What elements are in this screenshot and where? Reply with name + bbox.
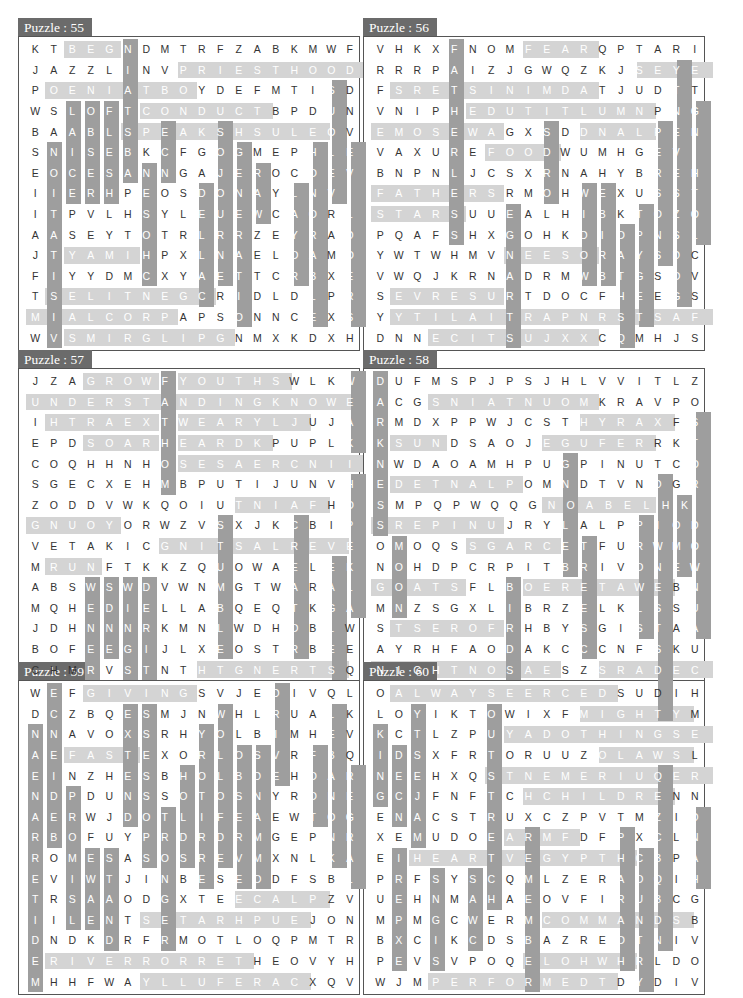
grid-letter: I	[267, 495, 286, 516]
grid-letter: G	[445, 598, 464, 619]
grid-row: NWDAOAMHPUGPINUTCO	[371, 453, 704, 474]
grid-letter: A	[501, 536, 520, 557]
grid-letter: T	[519, 286, 538, 307]
grid-row: SNISEBKCFGOGMEPHLE	[26, 142, 359, 163]
grid-letter: I	[63, 142, 82, 163]
grid-row: RRRPAIZJGWQZKJSEYE	[371, 60, 704, 81]
grid-letter: S	[686, 412, 705, 433]
grid-letter: E	[322, 639, 341, 660]
grid-letter: M	[248, 848, 267, 869]
grid-letter: E	[230, 868, 249, 889]
grid-letter: R	[137, 433, 156, 454]
grid-letter: I	[193, 807, 212, 828]
grid-letter: E	[26, 433, 45, 454]
letter-grid: OALWAYSEERCEDSUDIHLOYIKTOWIXFMIGHTYMKCTL…	[364, 681, 704, 994]
grid-letter: A	[322, 224, 341, 245]
grid-letter: U	[686, 639, 705, 660]
grid-letter: E	[649, 60, 668, 81]
grid-letter: O	[285, 951, 304, 972]
grid-row: JDHNNNRKMNLWDHOBLW	[26, 618, 359, 639]
grid-letter: N	[519, 392, 538, 413]
grid-letter: Y	[63, 245, 82, 266]
grid-letter: P	[174, 60, 193, 81]
grid-letter: S	[63, 577, 82, 598]
grid-letter: I	[593, 453, 612, 474]
grid-letter: A	[501, 889, 520, 910]
grid-letter: B	[538, 618, 557, 639]
grid-letter: A	[371, 392, 390, 413]
grid-letter: A	[612, 245, 631, 266]
grid-letter: R	[445, 618, 464, 639]
grid-letter: O	[612, 224, 631, 245]
grid-letter: G	[26, 515, 45, 536]
grid-letter: E	[371, 807, 390, 828]
grid-letter: P	[267, 433, 286, 454]
grid-letter: U	[63, 515, 82, 536]
grid-letter: B	[556, 556, 575, 577]
grid-letter: D	[267, 683, 286, 704]
grid-letter: D	[285, 286, 304, 307]
grid-letter: A	[482, 433, 501, 454]
grid-letter: E	[427, 618, 446, 639]
grid-letter: J	[667, 327, 686, 348]
grid-letter: G	[667, 286, 686, 307]
grid-letter: E	[45, 683, 64, 704]
grid-letter: K	[341, 433, 360, 454]
grid-letter: Y	[390, 307, 409, 328]
grid-letter: E	[408, 515, 427, 536]
grid-letter: G	[230, 659, 249, 680]
grid-letter: A	[686, 618, 705, 639]
grid-letter: S	[501, 327, 520, 348]
grid-letter: L	[371, 704, 390, 725]
grid-letter: E	[556, 971, 575, 992]
grid-letter: D	[593, 683, 612, 704]
grid-letter: T	[482, 848, 501, 869]
grid-letter: D	[575, 827, 594, 848]
grid-letter: V	[82, 724, 101, 745]
grid-letter: U	[427, 142, 446, 163]
grid-letter: Z	[575, 745, 594, 766]
grid-letter: H	[519, 786, 538, 807]
grid-letter: U	[538, 392, 557, 413]
grid-letter: E	[211, 848, 230, 869]
grid-letter: S	[371, 618, 390, 639]
grid-letter: F	[341, 39, 360, 60]
grid-letter: X	[322, 327, 341, 348]
grid-letter: E	[341, 142, 360, 163]
grid-letter: A	[63, 371, 82, 392]
grid-letter: A	[667, 618, 686, 639]
grid-letter: T	[230, 495, 249, 516]
grid-letter: Y	[119, 827, 138, 848]
grid-letter: E	[464, 142, 483, 163]
grid-letter: R	[285, 659, 304, 680]
grid-letter: B	[267, 101, 286, 122]
grid-letter: E	[119, 474, 138, 495]
puzzle-55: Puzzle : 55KTBEGNDMTRFZABKMWFJAZZLINVPRI…	[18, 18, 360, 351]
grid-letter: G	[501, 121, 520, 142]
grid-letter: N	[193, 704, 212, 725]
grid-letter: P	[137, 121, 156, 142]
grid-letter: C	[82, 474, 101, 495]
grid-letter: L	[538, 951, 557, 972]
grid-letter: N	[371, 765, 390, 786]
grid-letter: S	[464, 433, 483, 454]
grid-letter: T	[408, 307, 427, 328]
grid-letter: W	[649, 536, 668, 557]
grid-letter: R	[464, 745, 483, 766]
grid-letter: O	[193, 765, 212, 786]
grid-letter: F	[211, 807, 230, 828]
grid-letter: T	[211, 930, 230, 951]
grid-letter: U	[285, 433, 304, 454]
grid-letter: U	[211, 204, 230, 225]
grid-letter: E	[667, 121, 686, 142]
grid-letter: R	[519, 827, 538, 848]
grid-letter: S	[667, 910, 686, 931]
grid-letter: V	[501, 848, 520, 869]
grid-letter: F	[211, 39, 230, 60]
grid-letter: N	[45, 515, 64, 536]
grid-letter: G	[100, 39, 119, 60]
grid-letter: S	[501, 659, 520, 680]
grid-letter: M	[482, 453, 501, 474]
grid-letter: K	[675, 495, 694, 516]
grid-letter: H	[656, 495, 675, 516]
